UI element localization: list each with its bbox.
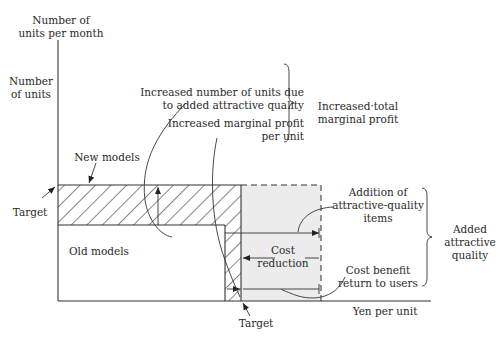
new-models-label: New models [74,151,140,163]
shaded-cost-area [241,185,321,301]
target-y-label: Target [13,206,48,218]
cost-benefit-label-line2: return to users [338,277,418,289]
cost-benefit-label: Cost benefit [346,264,411,276]
added-quality-label-line3: quality [452,249,489,261]
increased-units-label: Increased number of units due [140,86,304,98]
cost-reduction-label-line2: reduction [257,257,308,269]
x-axis-label: Yen per unit [352,305,419,317]
added-quality-label: Added [452,223,487,235]
target-y-arrow [42,187,55,198]
increased-units-label-line2: to added attractive quality [163,99,304,111]
target-x-label: Target [239,317,274,329]
old-models-box [58,225,225,301]
added-quality-label-line2: attractive [444,236,496,248]
increased-total-label: Increased·total [318,100,399,112]
cost-reduction-label: Cost [271,244,296,256]
addition-label-line3: items [363,212,392,224]
attractive-quality-profit-diagram: Number of units per month Number of unit… [0,0,503,347]
y-sub-label-line2: of units [11,88,51,100]
target-x-arrow [243,303,250,316]
addition-label-line2: attractive-quality [332,199,424,211]
increased-margin-label: Increased marginal profit [168,117,305,129]
new-models-arrow [89,163,96,183]
increased-margin-label-line2: per unit [262,130,305,142]
cost-hatched-column [225,225,241,301]
y-sub-label: Number [9,75,54,87]
increased-total-label-line2: marginal profit [318,113,399,125]
old-models-label: Old models [69,245,129,257]
addition-label: Addition of [348,186,409,198]
y-axis-label-line2: units per month [18,27,103,39]
y-axis-label: Number of [32,14,91,26]
